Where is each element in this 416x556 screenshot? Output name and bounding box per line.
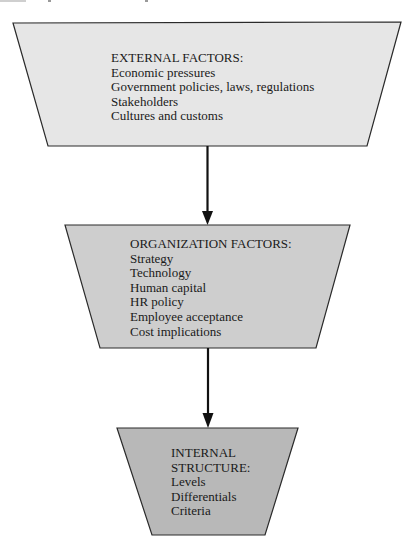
external-factor-item: Cultures and customs (111, 109, 314, 124)
internal-structure-heading-line-1: INTERNAL (171, 446, 250, 461)
organization-factor-item: Employee acceptance (130, 310, 292, 325)
arrow-external-to-organization (202, 146, 213, 225)
organization-factors-text: ORGANIZATION FACTORS: Strategy Technolog… (130, 237, 292, 339)
external-factor-item: Economic pressures (111, 66, 314, 81)
internal-structure-item: Criteria (171, 504, 250, 519)
internal-structure-heading-line-2: STRUCTURE: (171, 461, 250, 476)
organization-factor-item: Technology (130, 266, 292, 281)
external-factors-text: EXTERNAL FACTORS: Economic pressures Gov… (111, 51, 314, 124)
internal-structure-item: Levels (171, 475, 250, 490)
organization-factor-item: HR policy (130, 295, 292, 310)
arrow-organization-to-internal (203, 348, 214, 428)
external-factor-item: Stakeholders (111, 95, 314, 110)
cropped-caption-fragment (0, 0, 148, 2)
organization-factor-item: Human capital (130, 281, 292, 296)
organization-factor-item: Cost implications (130, 325, 292, 340)
organization-factor-item: Strategy (130, 252, 292, 267)
external-factors-heading: EXTERNAL FACTORS: (111, 51, 314, 66)
external-factor-item: Government policies, laws, regulations (111, 80, 314, 95)
internal-structure-item: Differentials (171, 490, 250, 505)
internal-structure-text: INTERNAL STRUCTURE: Levels Differentials… (171, 446, 250, 519)
organization-factors-heading: ORGANIZATION FACTORS: (130, 237, 292, 252)
